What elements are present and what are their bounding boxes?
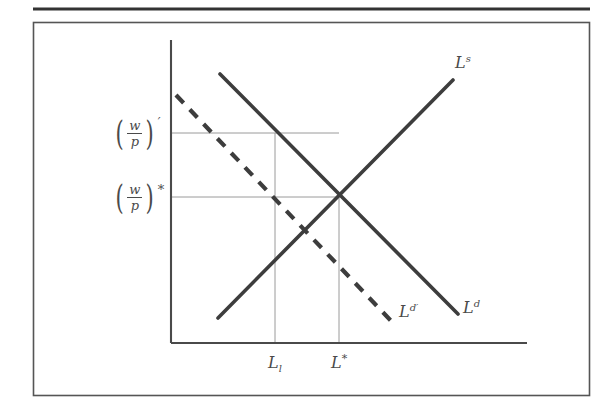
canvas-background	[0, 0, 609, 416]
curve-label-base: L	[455, 53, 466, 72]
wage-shifted-label: ( w p ) ′	[113, 119, 160, 148]
label-base: L	[268, 353, 279, 372]
curve-label-superscript: s	[466, 53, 471, 64]
curve-label-base: L	[463, 298, 474, 317]
fraction-denominator: p	[129, 134, 141, 148]
wage-fraction: w p	[127, 119, 142, 148]
fraction-numerator: w	[127, 119, 142, 133]
curve-label-base: L	[399, 302, 410, 321]
curve-label-superscript: d	[474, 298, 480, 309]
labor-demand-shifted-curve-label: Ld′	[399, 304, 418, 320]
labor-supply-curve-label: Ls	[455, 55, 471, 71]
left-paren-glyph: (	[116, 120, 124, 148]
label-superscript: *	[342, 352, 348, 365]
right-paren-glyph: )	[146, 120, 154, 148]
label-subscript: l	[279, 363, 282, 374]
prime-superscript: ′	[158, 117, 161, 129]
right-paren-glyph: )	[146, 184, 154, 212]
curve-label-superscript: d′	[410, 302, 419, 313]
wage-equilibrium-label: ( w p ) *	[113, 183, 164, 212]
labor-market-figure: ( w p ) ′ ( w p ) * Ll L* Ls Ld Ld′	[0, 0, 609, 416]
label-base: L	[331, 353, 342, 372]
left-paren-glyph: (	[116, 184, 124, 212]
labor-equilibrium-axis-label: L*	[331, 355, 347, 371]
fraction-denominator: p	[129, 198, 141, 212]
wage-fraction: w p	[127, 183, 142, 212]
labor-demand-curve-label: Ld	[463, 300, 480, 316]
labor-constrained-axis-label: Ll	[268, 355, 282, 371]
diagram-canvas	[0, 0, 609, 416]
star-superscript: *	[158, 183, 165, 196]
fraction-numerator: w	[127, 183, 142, 197]
